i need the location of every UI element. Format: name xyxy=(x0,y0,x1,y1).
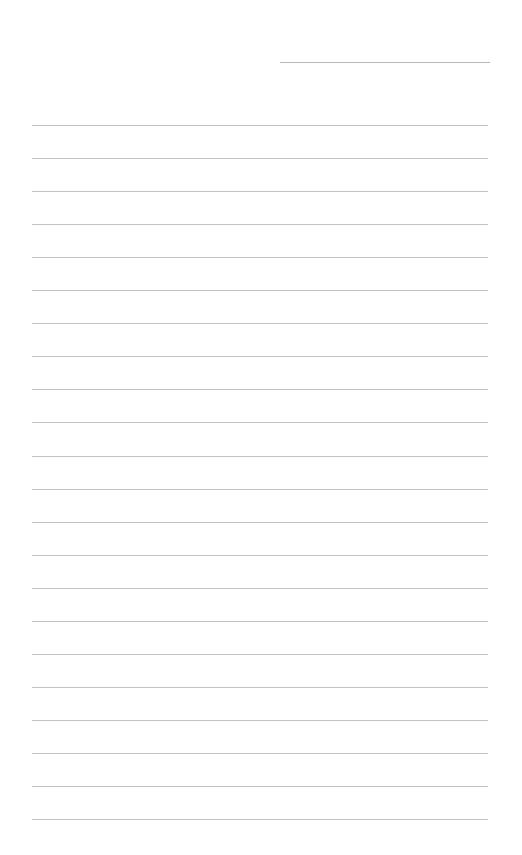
ruled-line xyxy=(32,323,488,324)
ruled-line xyxy=(32,489,488,490)
ruled-line xyxy=(32,720,488,721)
ruled-line xyxy=(32,158,488,159)
ruled-line xyxy=(32,621,488,622)
ruled-line xyxy=(32,555,488,556)
ruled-line xyxy=(32,290,488,291)
ruled-line xyxy=(32,687,488,688)
header-name-line xyxy=(280,62,490,63)
ruled-line xyxy=(32,522,488,523)
ruled-line xyxy=(32,819,488,820)
ruled-line xyxy=(32,125,488,126)
ruled-line xyxy=(32,356,488,357)
ruled-line xyxy=(32,654,488,655)
ruled-line xyxy=(32,257,488,258)
ruled-line xyxy=(32,389,488,390)
ruled-line xyxy=(32,456,488,457)
ruled-line xyxy=(32,753,488,754)
ruled-line xyxy=(32,786,488,787)
ruled-line xyxy=(32,224,488,225)
ruled-line xyxy=(32,422,488,423)
ruled-line xyxy=(32,588,488,589)
ruled-line xyxy=(32,191,488,192)
